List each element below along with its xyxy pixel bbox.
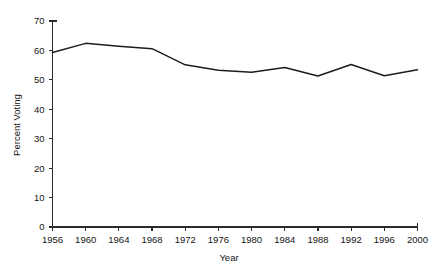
line-chart: 010203040506070 195619601964196819721976… [0, 0, 439, 277]
x-tick-label-1980: 1980 [241, 234, 262, 245]
x-tick-label-1972: 1972 [175, 234, 196, 245]
x-axis-title: Year [219, 252, 238, 263]
x-tick-label-1996: 1996 [374, 234, 395, 245]
x-tick-label-1956: 1956 [42, 234, 63, 245]
y-tick-label-40: 40 [34, 104, 45, 115]
x-tick-label-1988: 1988 [307, 234, 328, 245]
x-tick-label-1976: 1976 [208, 234, 229, 245]
y-tick-label-60: 60 [34, 45, 45, 56]
x-tick-label-1992: 1992 [341, 234, 362, 245]
chart-container: 010203040506070 195619601964196819721976… [0, 0, 439, 277]
data-series-percent-voting [53, 43, 418, 76]
y-tick-label-10: 10 [34, 192, 45, 203]
x-tick-label-1960: 1960 [75, 234, 96, 245]
y-tick-label-50: 50 [34, 74, 45, 85]
x-tick-label-1968: 1968 [141, 234, 162, 245]
x-axis: 1956196019641968197219761980198419881992… [42, 223, 428, 245]
x-axis-spine [53, 223, 418, 227]
x-tick-label-1984: 1984 [274, 234, 295, 245]
x-tick-label-2000: 2000 [407, 234, 428, 245]
y-tick-label-30: 30 [34, 133, 45, 144]
series-polyline [53, 43, 418, 76]
y-tick-label-0: 0 [39, 221, 44, 232]
y-axis-title: Percent Voting [11, 94, 22, 156]
y-tick-label-20: 20 [34, 163, 45, 174]
y-axis: 010203040506070 [34, 15, 57, 232]
y-tick-label-70: 70 [34, 15, 45, 26]
x-tick-label-1964: 1964 [108, 234, 129, 245]
